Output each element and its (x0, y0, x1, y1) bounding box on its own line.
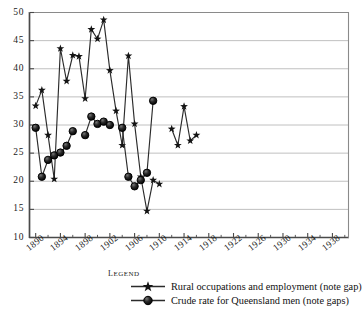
y-tick-label-10: 10 (2, 232, 24, 242)
circle-data-point (137, 176, 144, 183)
star-marker-icon (130, 280, 166, 293)
y-tick-label-25: 25 (2, 147, 24, 157)
circle-data-point (88, 113, 95, 120)
circle-data-point (57, 149, 64, 156)
legend-title: Legend (108, 266, 356, 278)
circle-data-point (143, 169, 150, 176)
legend-label-rural: Rural occupations and employment (note g… (166, 281, 362, 292)
circle-data-point (149, 97, 156, 104)
y-tick-label-20: 20 (2, 175, 24, 185)
y-tick-label-40: 40 (2, 63, 24, 73)
circle-marker-icon (130, 294, 166, 307)
legend-label-crude: Crude rate for Queensland men (note gaps… (166, 295, 349, 306)
y-tick-label-50: 50 (2, 7, 24, 17)
circle-data-point (119, 124, 126, 131)
circle-data-point (69, 127, 76, 134)
circle-data-point (32, 124, 39, 131)
circle-data-point (38, 173, 45, 180)
circle-data-point (131, 183, 138, 190)
y-tick-label-35: 35 (2, 91, 24, 101)
circle-data-point (106, 121, 113, 128)
circle-data-point (63, 142, 70, 149)
y-tick-label-30: 30 (2, 119, 24, 129)
legend-entry-rural: Rural occupations and employment (note g… (108, 279, 356, 293)
circle-data-point (125, 173, 132, 180)
y-tick-label-45: 45 (2, 35, 24, 45)
legend: Legend Rural occupations and employment … (108, 266, 356, 307)
y-tick-label-15: 15 (2, 203, 24, 213)
legend-entry-crude: Crude rate for Queensland men (note gaps… (108, 293, 356, 307)
circle-data-point (81, 131, 88, 138)
